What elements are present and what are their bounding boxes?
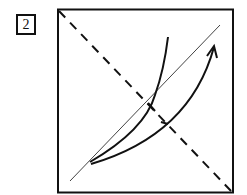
crossing-tick-2 — [161, 122, 168, 124]
origami-diagram — [0, 0, 247, 195]
diagonal-crease-line — [70, 25, 220, 181]
fold-arrow-curve — [91, 47, 214, 164]
valley-fold-line — [59, 11, 232, 192]
flap-edge-curve — [90, 37, 168, 162]
